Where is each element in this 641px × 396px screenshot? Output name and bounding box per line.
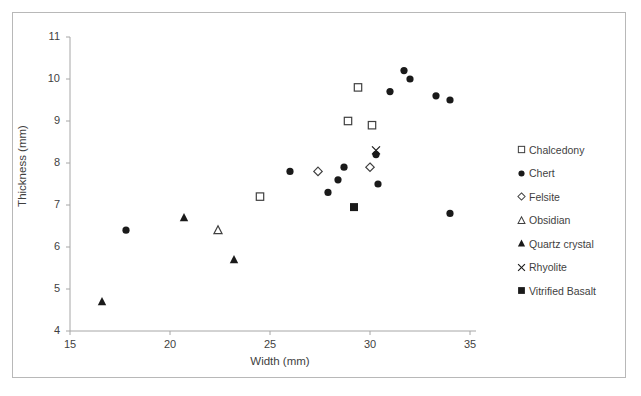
marker-filled-square [518,287,525,294]
legend-item[interactable]: Vitrified Basalt [515,279,625,303]
series-chalcedony [256,84,375,201]
marker-open-diamond [366,163,374,171]
legend-marker-open-square-icon [515,143,529,156]
series-vitrified-basalt [350,203,358,211]
x-tick-label: 20 [155,338,185,350]
y-tick-label: 10 [34,72,60,84]
marker-filled-square [350,203,358,211]
y-tick-label: 5 [34,282,60,294]
marker-open-triangle [518,217,525,224]
marker-open-square [344,117,351,124]
legend-label: Rhyolite [529,261,567,273]
legend-marker-filled-circle-icon [515,167,529,180]
legend-item[interactable]: Chalcedony [515,138,625,162]
legend-item[interactable]: Chert [515,162,625,186]
x-axis-title: Width (mm) [190,355,370,367]
marker-open-diamond [518,193,525,200]
legend-label: Quartz crystal [529,238,594,250]
y-tick-label: 8 [34,156,60,168]
y-tick-label: 11 [34,30,60,42]
y-tick-label: 6 [34,240,60,252]
marker-cross-x [518,264,525,271]
marker-open-square [518,147,524,153]
x-tick-label: 30 [355,338,385,350]
marker-filled-circle [386,88,393,95]
legend-marker-cross-x-icon [515,261,529,274]
legend-marker-filled-triangle-icon [515,237,529,250]
x-tick-label: 35 [455,338,485,350]
marker-open-square [354,84,361,91]
marker-filled-circle [446,96,453,103]
marker-open-diamond [314,167,322,175]
marker-open-triangle [214,226,222,234]
marker-filled-triangle [518,240,525,247]
legend-item[interactable]: Rhyolite [515,256,625,280]
marker-filled-circle [518,170,524,176]
y-tick-label: 4 [34,324,60,336]
legend-label: Vitrified Basalt [529,285,596,297]
marker-filled-circle [334,176,341,183]
marker-open-square [368,122,375,129]
legend-label: Chalcedony [529,144,584,156]
series-chert [122,67,453,234]
marker-filled-circle [122,227,129,234]
marker-filled-circle [324,189,331,196]
marker-filled-circle [432,92,439,99]
marker-filled-circle [446,210,453,217]
series-obsidian [214,226,222,234]
marker-filled-circle [286,168,293,175]
scatter-plot-figure: 1110987654 1520253035 Thickness (mm) Wid… [0,0,641,396]
legend-label: Felsite [529,191,560,203]
legend-item[interactable]: Quartz crystal [515,232,625,256]
marker-filled-circle [406,75,413,82]
y-tick-label: 9 [34,114,60,126]
x-tick-label: 25 [255,338,285,350]
marker-filled-circle [340,164,347,171]
legend-marker-filled-square-icon [515,284,529,297]
x-tick-label: 15 [55,338,85,350]
marker-filled-circle [400,67,407,74]
legend-marker-open-triangle-icon [515,214,529,227]
marker-filled-circle [374,180,381,187]
marker-filled-triangle [180,213,188,221]
y-tick-label: 7 [34,198,60,210]
legend-label: Chert [529,167,555,179]
marker-filled-triangle [230,255,238,263]
marker-open-square [256,193,263,200]
y-axis-title: Thickness (mm) [16,106,28,226]
legend-item[interactable]: Felsite [515,185,625,209]
legend-label: Obsidian [529,214,570,226]
legend-marker-open-diamond-icon [515,190,529,203]
legend-item[interactable]: Obsidian [515,209,625,233]
marker-filled-triangle [98,297,106,305]
legend: ChalcedonyChertFelsiteObsidianQuartz cry… [515,138,625,303]
